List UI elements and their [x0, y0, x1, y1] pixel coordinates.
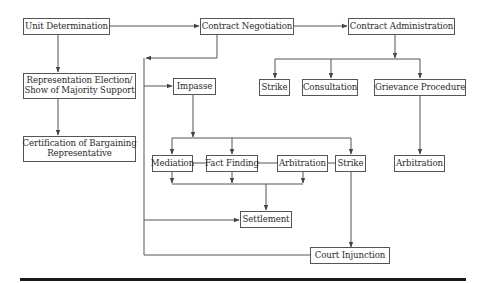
node-label: Contract Negotiation [202, 22, 292, 32]
node-label: Grievance Procedure [375, 83, 465, 93]
node-strike-impasse: Strike [335, 155, 366, 172]
node-label: Strike [338, 159, 364, 169]
node-label: Mediation [151, 159, 194, 169]
node-consultation: Consultation [302, 79, 358, 96]
node-settlement: Settlement [240, 211, 292, 228]
node-label: Contract Administration [350, 22, 454, 32]
node-contract-administration: Contract Administration [348, 18, 455, 35]
node-arbitration-grievance: Arbitration [394, 155, 445, 172]
node-label: Arbitration [396, 159, 443, 169]
node-contract-negotiation: Contract Negotiation [200, 18, 294, 35]
node-label: Fact Finding [205, 159, 259, 169]
bottom-rule [20, 278, 466, 281]
node-impasse: Impasse [173, 78, 216, 95]
node-mediation: Mediation [152, 155, 193, 172]
node-representation-election: Representation Election/ Show of Majorit… [23, 73, 136, 99]
node-label-line2: Show of Majority Support [24, 86, 134, 96]
node-fact-finding: Fact Finding [206, 155, 258, 172]
node-arbitration-impasse: Arbitration [277, 155, 328, 172]
node-label-line2: Representative [47, 149, 112, 159]
node-certification: Certification of Bargaining Representati… [23, 136, 136, 162]
node-label: Arbitration [279, 159, 326, 169]
node-label: Settlement [243, 215, 290, 225]
node-court-injunction: Court Injunction [310, 247, 390, 264]
node-label: Impasse [177, 82, 212, 92]
node-label: Strike [262, 83, 288, 93]
node-grievance-procedure: Grievance Procedure [374, 79, 466, 96]
node-label: Consultation [303, 83, 357, 93]
node-unit-determination: Unit Determination [23, 18, 110, 35]
edge-negotiation-to-loop [146, 34, 217, 58]
node-label: Unit Determination [25, 22, 108, 32]
node-label: Court Injunction [315, 251, 385, 261]
node-strike-admin: Strike [259, 79, 290, 96]
